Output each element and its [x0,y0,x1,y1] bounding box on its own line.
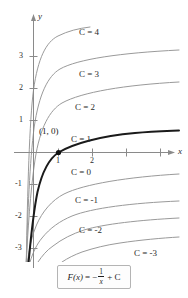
curve-label-c4: C = 4 [79,28,99,37]
formula-fraction: 1 x [98,268,104,285]
point-label-1-0: (1, 0) [39,127,59,136]
y-axis-label: y [38,12,42,21]
point-marker-1-0 [56,150,61,155]
formula-lhs: F(x) [68,272,84,282]
y-tick-label-1: 1 [19,116,23,124]
x-axis-arrow [168,150,175,155]
curve-label-c2: C = 2 [75,103,95,112]
formula-expression: F(x) = − 1 x + C [68,269,121,286]
formula-plus-c: + C [107,272,120,282]
formula-equals: = [85,272,90,282]
curve-c-2 [38,218,179,262]
formula-box: F(x) = − 1 x + C [57,265,131,289]
curves-group [26,27,179,262]
x-tick-label-2: 2 [90,157,94,165]
formula-denominator: x [98,278,103,286]
function-plot-svg [0,0,188,298]
y-tick-label-3: 3 [19,52,23,60]
graph-figure: y x 3 2 1 -1 -2 -3 1 2 (1, 0) C = 4 C = … [0,0,188,298]
curve-label-c-3: C = -3 [134,249,157,258]
curve-label-c3: C = 3 [79,70,99,79]
y-axis-arrow [31,14,36,21]
curve-c1-highlight [29,131,179,263]
curve-label-c1: C = 1 [71,135,91,144]
curve-label-c-2: C = -2 [79,226,102,235]
x-tick-label-1: 1 [56,157,60,165]
curve-c2 [26,82,179,262]
y-tick-label-neg2: -2 [15,212,22,220]
formula-numerator: 1 [98,268,104,276]
y-tick-label-neg3: -3 [15,244,22,252]
y-tick-label-neg1: -1 [15,180,22,188]
y-tick-label-2: 2 [19,84,23,92]
curve-c-3 [62,237,179,262]
curve-label-c0: C = 0 [71,168,91,177]
formula-minus: − [92,272,97,282]
curve-label-c-1: C = -1 [75,196,98,205]
x-axis-label: x [178,147,182,156]
